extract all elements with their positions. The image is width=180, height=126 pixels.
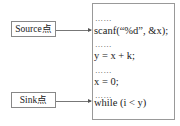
sink-node: Sink点 (11, 92, 56, 108)
code-line-scanf: scanf(“%d”, &x); (94, 25, 168, 37)
code-line-while: while (i < y) (94, 97, 146, 109)
ellipsis: …… (95, 67, 112, 75)
source-node: Source点 (11, 21, 56, 37)
sink-arrow (56, 101, 91, 102)
code-line-assign-y: y = x + k; (94, 50, 135, 62)
code-block: …… scanf(“%d”, &x); …… y = x + k; …… x =… (92, 3, 175, 120)
ellipsis: …… (95, 41, 112, 49)
code-line-assign-x: x = 0; (94, 76, 119, 88)
source-arrow (56, 30, 91, 31)
ellipsis: …… (95, 15, 112, 23)
